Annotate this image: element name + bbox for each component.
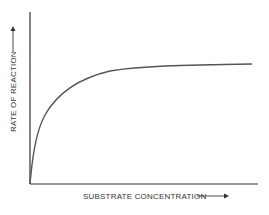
x-axis-label: SUBSTRATE CONCENTRATION [83,192,229,201]
x-axis-label-text: SUBSTRATE CONCENTRATION [83,192,206,201]
y-arrowhead-icon [11,26,16,31]
y-axis-label-text: RATE OF REACTION [9,51,18,132]
rate-curve [30,64,252,184]
saturation-chart: RATE OF REACTION SUBSTRATE CONCENTRATION [0,0,269,215]
x-arrowhead-icon [224,194,229,199]
y-axis-label: RATE OF REACTION [9,26,18,132]
